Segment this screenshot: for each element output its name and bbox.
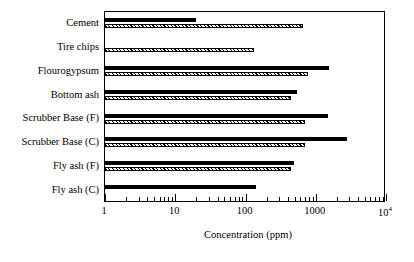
tick-label: 10 (169, 205, 180, 216)
y-axis-label: Scrubber Base (C) (21, 136, 99, 148)
bar-sulfate (105, 185, 256, 189)
tick-minor (295, 197, 296, 201)
tick-major (246, 194, 247, 201)
tick-minor (230, 197, 231, 201)
tick-minor (196, 197, 197, 201)
tick-minor (370, 197, 371, 201)
x-axis-title-text: Concentration (ppm) (204, 229, 292, 240)
tick-label: 104 (378, 205, 392, 218)
tick-minor (218, 197, 219, 201)
tick-minor (349, 197, 350, 201)
tick-minor (239, 197, 240, 201)
bar-sulfate (105, 90, 297, 94)
tick-label: 100 (237, 205, 253, 216)
tick-minor (164, 197, 165, 201)
bar-calcium (105, 120, 305, 124)
tick-major (386, 194, 387, 201)
y-axis-label: Cement (66, 17, 99, 29)
bar-calcium (105, 24, 303, 28)
bar-group (105, 131, 384, 155)
tick-minor (313, 197, 314, 201)
bar-calcium (105, 48, 254, 52)
bar-sulfate (105, 114, 328, 118)
tick-minor (168, 197, 169, 201)
tick-minor (365, 197, 366, 201)
chart-figure: CementTire chipsFlourogypsumBottom ashSc… (0, 0, 414, 262)
tick-minor (235, 197, 236, 201)
tick-minor (279, 197, 280, 201)
tick-minor (172, 197, 173, 201)
tick-label: 1000 (304, 205, 325, 216)
bar-group (105, 108, 384, 132)
bar-group (105, 60, 384, 84)
tick-minor (309, 197, 310, 201)
y-axis-label: Flourogypsum (38, 65, 99, 77)
bar-group (105, 36, 384, 60)
bar-calcium (105, 72, 308, 76)
tick-minor (379, 197, 380, 201)
tick-label: 1 (101, 205, 106, 216)
bar-group (105, 84, 384, 108)
tick-minor (383, 197, 384, 201)
tick-minor (147, 197, 148, 201)
tick-minor (224, 197, 225, 201)
bar-calcium (105, 96, 291, 100)
bar-calcium (105, 167, 291, 171)
tick-minor (375, 197, 376, 201)
y-axis-label: Fly ash (F) (53, 160, 99, 172)
bar-sulfate (105, 161, 294, 165)
bar-calcium (105, 143, 305, 147)
tick-minor (209, 197, 210, 201)
tick-minor (126, 197, 127, 201)
tick-major (316, 194, 317, 201)
bar-group (105, 155, 384, 179)
bar-sulfate (105, 66, 329, 70)
tick-minor (305, 197, 306, 201)
x-axis-title: Concentration (ppm) (0, 229, 414, 240)
tick-minor (267, 197, 268, 201)
tick-minor (160, 197, 161, 201)
y-axis-label: Bottom ash (51, 89, 99, 101)
y-axis-label: Tire chips (57, 41, 99, 53)
tick-major (105, 194, 106, 201)
bar-group (105, 12, 384, 36)
tick-minor (288, 197, 289, 201)
tick-minor (139, 197, 140, 201)
tick-minor (154, 197, 155, 201)
y-axis-label: Scrubber Base (F) (23, 112, 99, 124)
tick-major (175, 194, 176, 201)
tick-minor (300, 197, 301, 201)
tick-minor (337, 197, 338, 201)
bar-sulfate (105, 18, 196, 22)
tick-minor (242, 197, 243, 201)
y-axis-label: Fly ash (C) (52, 184, 99, 196)
tick-minor (358, 197, 359, 201)
plot-area: Calcium Sulfate (104, 11, 385, 202)
bar-sulfate (105, 137, 347, 141)
